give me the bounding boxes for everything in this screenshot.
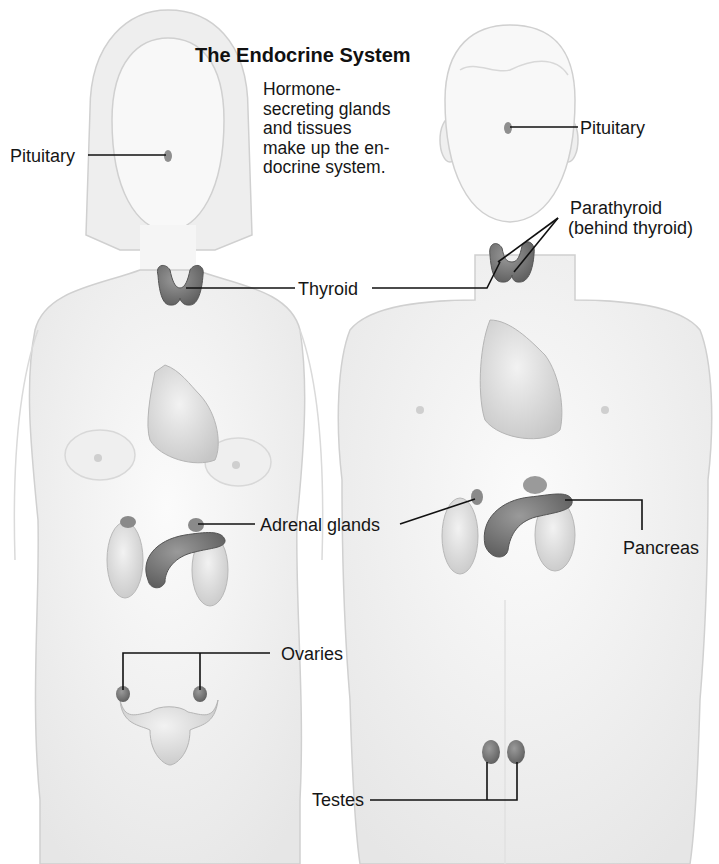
male-figure	[338, 25, 711, 864]
female-pituitary	[164, 150, 172, 162]
label-thyroid: Thyroid	[298, 279, 358, 299]
label-parathyroid-note: (behind thyroid)	[568, 218, 693, 238]
label-testes: Testes	[312, 790, 364, 810]
label-pituitary-male: Pituitary	[580, 118, 645, 138]
label-pituitary-female: Pituitary	[10, 146, 75, 166]
female-kidney-left	[107, 522, 143, 598]
male-thyroid	[490, 242, 535, 282]
description-line: Hormone-	[263, 80, 390, 100]
description-line: make up the en-	[263, 139, 390, 159]
description-line: docrine system.	[263, 158, 390, 178]
female-adrenal-right	[188, 518, 204, 532]
male-adrenal-right	[523, 476, 547, 494]
description-line: and tissues	[263, 119, 390, 139]
male-pituitary	[504, 122, 512, 134]
male-kidney-left	[442, 498, 478, 574]
label-pancreas: Pancreas	[623, 538, 699, 558]
page-title: The Endocrine System	[195, 44, 411, 67]
description-line: secreting glands	[263, 100, 390, 120]
label-parathyroid: Parathyroid	[570, 198, 662, 218]
male-adrenal-left	[471, 489, 483, 505]
male-testis-left	[482, 740, 500, 764]
description: Hormone- secreting glands and tissues ma…	[263, 80, 390, 178]
male-testis-right	[507, 740, 525, 764]
label-ovaries: Ovaries	[281, 644, 343, 664]
label-adrenal-glands: Adrenal glands	[260, 515, 380, 535]
female-adrenal-left	[120, 516, 136, 528]
